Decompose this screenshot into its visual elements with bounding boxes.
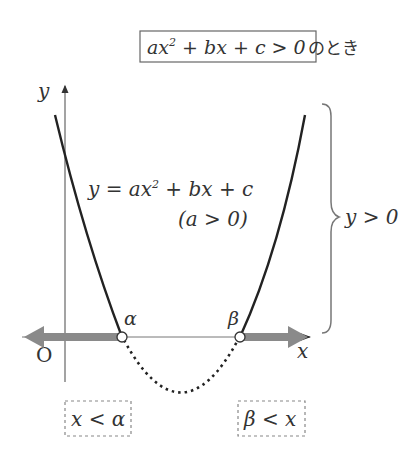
quadratic-inequality-diagram: ax2 + bx + c > 0のとき y x O α β y = ax2 + … xyxy=(0,0,414,454)
x-axis-label: x xyxy=(297,339,308,363)
origin-label: O xyxy=(36,343,52,367)
left-solution-arrow xyxy=(24,326,122,348)
beta-label: β xyxy=(227,307,239,329)
alpha-root-point xyxy=(117,332,127,342)
curve-condition: (a > 0) xyxy=(178,207,248,231)
right-brace xyxy=(322,104,339,333)
title-text: ax2 + bx + c > 0のとき xyxy=(147,36,359,58)
beta-root-point xyxy=(235,332,245,342)
curve-equation: y = ax2 + bx + c xyxy=(87,177,253,201)
brace-label: y > 0 xyxy=(344,205,399,229)
y-axis-label: y xyxy=(37,79,50,103)
left-solution-text: x < α xyxy=(71,407,126,431)
parabola-right-branch xyxy=(240,115,305,337)
parabola-below-axis-dotted xyxy=(124,340,238,393)
alpha-label: α xyxy=(124,307,137,329)
right-solution-text: β < x xyxy=(243,407,296,431)
